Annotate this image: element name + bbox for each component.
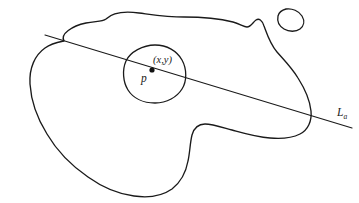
straight-line-L [45, 35, 352, 128]
line-label-L: La [337, 107, 347, 121]
point-label-p: p [141, 73, 147, 85]
figure-canvas [0, 0, 359, 203]
line-label-subscript: a [343, 112, 347, 121]
coordinates-label: (x,y) [153, 55, 172, 66]
topology-figure: (x,y) p La [0, 0, 359, 203]
small-separate-blob [278, 9, 304, 31]
large-irregular-region [30, 12, 311, 196]
marked-point-p [149, 67, 154, 72]
